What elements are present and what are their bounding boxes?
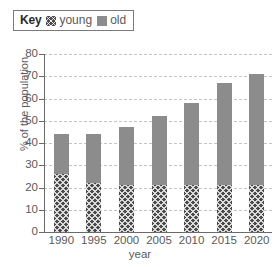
bar-segment-young	[86, 183, 101, 232]
bars-layer	[44, 54, 272, 232]
bar-segment-young	[152, 185, 167, 232]
bar-group	[152, 54, 167, 232]
bar-segment-old	[119, 127, 134, 185]
stacked-bar	[54, 134, 69, 232]
y-tick-label: 40	[16, 136, 38, 148]
stacked-bar	[119, 127, 134, 232]
bar-group	[184, 54, 199, 232]
stacked-bar	[184, 103, 199, 232]
x-tick-label: 2010	[179, 234, 205, 246]
y-tick-label: 20	[16, 181, 38, 193]
stacked-bar	[86, 134, 101, 232]
bar-segment-old	[217, 83, 232, 185]
y-tick-label: 0	[16, 225, 38, 237]
y-tick-label: 80	[16, 47, 38, 59]
bar-segment-young	[119, 185, 134, 232]
bar-segment-old	[86, 134, 101, 183]
bar-segment-young	[184, 185, 199, 232]
x-tick-label: 1990	[48, 234, 74, 246]
bar-group	[119, 54, 134, 232]
bar-group	[217, 54, 232, 232]
bar-segment-young	[217, 185, 232, 232]
y-tick-label: 60	[16, 92, 38, 104]
stacked-bar	[249, 74, 264, 232]
x-tick-label: 2020	[244, 234, 270, 246]
x-tick-label: 2000	[114, 234, 140, 246]
x-tick-label: 2005	[146, 234, 172, 246]
y-axis-ticks: 01020304050607080	[10, 0, 38, 267]
y-tick-label: 10	[16, 203, 38, 215]
bar-chart: Key young old % of the population year 0…	[0, 0, 280, 267]
plot-area: % of the population year 010203040506070…	[0, 0, 280, 267]
bar-segment-old	[249, 74, 264, 185]
stacked-bar	[217, 83, 232, 232]
bar-segment-old	[54, 134, 69, 174]
x-axis-line	[44, 232, 272, 233]
bar-segment-old	[152, 116, 167, 185]
bar-segment-young	[249, 185, 264, 232]
bar-group	[249, 54, 264, 232]
x-tick-label: 2015	[211, 234, 237, 246]
y-tick-label: 50	[16, 114, 38, 126]
y-tick-label: 70	[16, 69, 38, 81]
bar-group	[54, 54, 69, 232]
bar-group	[86, 54, 101, 232]
bar-segment-old	[184, 103, 199, 185]
y-tick-label: 30	[16, 158, 38, 170]
bar-segment-young	[54, 174, 69, 232]
stacked-bar	[152, 116, 167, 232]
x-axis-label: year	[0, 248, 280, 260]
x-tick-label: 1995	[81, 234, 107, 246]
